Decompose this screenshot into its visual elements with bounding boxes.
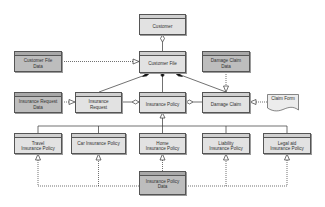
class-insurance-policy-data[interactable]: Insurance Policy Data <box>139 171 186 195</box>
class-label: Legal aid Insurance Policy <box>264 138 310 153</box>
class-label: Car Insurance Policy <box>72 138 125 153</box>
class-insurance-request[interactable]: Insurance Request <box>75 92 122 113</box>
class-home-insurance-policy[interactable]: Home Insurance Policy <box>139 133 186 154</box>
class-legal-aid-insurance-policy[interactable]: Legal aid Insurance Policy <box>263 133 311 154</box>
class-label: Customer <box>140 19 185 34</box>
document-label: Claim Form <box>267 96 299 101</box>
class-label: Liability Insurance Policy <box>203 138 249 153</box>
class-insurance-policy[interactable]: Insurance Policy <box>139 92 186 113</box>
class-label: Insurance Request Data <box>15 97 61 112</box>
class-label: Travel Insurance Policy <box>15 138 61 153</box>
class-label: Damage Claim <box>203 97 249 112</box>
class-customer[interactable]: Customer <box>139 14 186 35</box>
class-customer-file[interactable]: Customer File <box>139 51 186 73</box>
class-liability-insurance-policy[interactable]: Liability Insurance Policy <box>202 133 250 154</box>
class-label: Insurance Policy <box>140 97 185 112</box>
class-label: Insurance Request <box>76 97 121 112</box>
class-label: Insurance Policy Data <box>140 176 185 194</box>
document-claim-form[interactable]: Claim Form <box>267 94 299 112</box>
class-damage-claim[interactable]: Damage Claim <box>202 92 250 113</box>
class-insurance-request-data[interactable]: Insurance Request Data <box>14 92 62 113</box>
class-damage-claim-data[interactable]: Damage Claim Data <box>202 51 250 72</box>
class-label: Home Insurance Policy <box>140 138 185 153</box>
class-customer-file-data[interactable]: Customer File Data <box>14 51 62 72</box>
class-label: Customer File Data <box>15 56 61 71</box>
class-label: Customer File <box>140 56 185 72</box>
class-car-insurance-policy[interactable]: Car Insurance Policy <box>71 133 126 154</box>
class-travel-insurance-policy[interactable]: Travel Insurance Policy <box>14 133 62 154</box>
class-label: Damage Claim Data <box>203 56 249 71</box>
